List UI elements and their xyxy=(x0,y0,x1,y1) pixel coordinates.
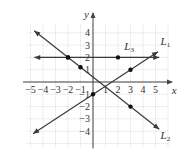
data-point xyxy=(116,55,120,59)
x-tick-label: 4 xyxy=(141,84,146,95)
line-label-l1: L1 xyxy=(160,35,171,49)
x-tick-label: −4 xyxy=(38,84,49,95)
y-tick-label: 3 xyxy=(85,40,90,51)
y-axis-arrow-icon xyxy=(91,12,96,18)
data-point xyxy=(66,55,70,59)
x-tick-label: 3 xyxy=(128,84,133,95)
y-tick-label: −4 xyxy=(79,126,90,137)
y-tick-label: 2 xyxy=(85,52,90,63)
x-tick-label: 5 xyxy=(153,84,158,95)
line-l2 xyxy=(34,31,159,129)
coordinate-plane: −5−4−3−2−1123454321−1−2−3−4xyL1L2L3 xyxy=(0,0,196,163)
arrow-icon xyxy=(34,55,40,60)
x-tick-label: 1 xyxy=(103,84,108,95)
y-tick-label: −3 xyxy=(79,113,90,124)
x-tick-label: 2 xyxy=(116,84,121,95)
line-label-l2: L2 xyxy=(160,129,171,143)
x-axis-label: x xyxy=(171,84,177,96)
arrow-icon xyxy=(33,128,39,133)
line-label-l3: L3 xyxy=(123,40,134,54)
axes xyxy=(23,12,173,149)
y-tick-label: −2 xyxy=(79,101,90,112)
x-tick-label: −2 xyxy=(63,84,74,95)
data-point xyxy=(91,92,95,96)
data-point xyxy=(78,65,82,69)
y-tick-label: 4 xyxy=(85,27,90,38)
data-point xyxy=(128,104,132,108)
data-point xyxy=(128,68,132,72)
y-tick-label: −1 xyxy=(79,89,90,100)
labels: −5−4−3−2−1123454321−1−2−3−4xyL1L2L3 xyxy=(25,8,177,143)
x-tick-label: −5 xyxy=(25,84,36,95)
arrow-icon xyxy=(153,55,159,60)
x-tick-label: −3 xyxy=(50,84,61,95)
y-tick-label: 1 xyxy=(85,64,90,75)
y-axis-label: y xyxy=(83,8,89,20)
